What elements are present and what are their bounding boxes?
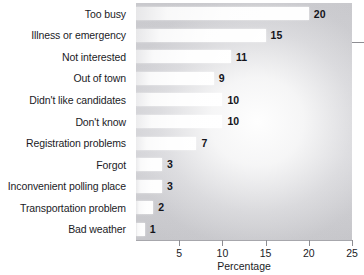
bar-row: 1 xyxy=(136,218,352,240)
bar xyxy=(136,137,196,150)
category-label: Illness or emergency xyxy=(0,25,132,47)
plot-area: 20 15 11 9 10 10 xyxy=(136,3,352,240)
category-label: Forgot xyxy=(0,154,132,176)
category-axis: Too busy Illness or emergency Not intere… xyxy=(0,3,132,240)
category-label: Inconvenient polling place xyxy=(0,175,132,197)
bar-value-label: 9 xyxy=(219,73,225,84)
bar-row: 11 xyxy=(136,46,352,68)
bar-value-label: 15 xyxy=(271,30,283,41)
category-label: Transportation problem xyxy=(0,197,132,219)
bar xyxy=(136,115,222,128)
category-label: Registration problems xyxy=(0,132,132,154)
bar-value-label: 10 xyxy=(227,95,239,106)
bar-row: 3 xyxy=(136,154,352,176)
bar-row: 10 xyxy=(136,111,352,133)
x-axis-tick xyxy=(309,240,310,246)
x-axis-line xyxy=(136,240,352,241)
x-axis-tick-label: 5 xyxy=(176,247,182,259)
x-axis-tick-label: 15 xyxy=(260,247,272,259)
bar-row: 15 xyxy=(136,25,352,47)
bar xyxy=(136,7,309,20)
x-axis-tick-label: 10 xyxy=(217,247,229,259)
x-axis-tick xyxy=(179,240,180,246)
bar-row: 9 xyxy=(136,68,352,90)
x-axis-title: Percentage xyxy=(136,260,352,272)
x-axis-tick xyxy=(266,240,267,246)
bar-row: 7 xyxy=(136,132,352,154)
bar-value-label: 20 xyxy=(314,9,326,20)
bar-row: 3 xyxy=(136,175,352,197)
bar xyxy=(136,180,162,193)
bar-row: 10 xyxy=(136,89,352,111)
bar-row: 2 xyxy=(136,197,352,219)
bar-series: 20 15 11 9 10 10 xyxy=(136,3,352,240)
bar-value-label: 11 xyxy=(236,52,247,63)
category-label: Out of town xyxy=(0,68,132,90)
category-label: Don't know xyxy=(0,111,132,133)
bar-row: 20 xyxy=(136,3,352,25)
x-axis-tick xyxy=(222,240,223,246)
bar xyxy=(136,158,162,171)
category-label: Didn't like candidates xyxy=(0,89,132,111)
bar xyxy=(136,29,266,42)
category-label: Not interested xyxy=(0,46,132,68)
x-axis-tick-label: 20 xyxy=(303,247,315,259)
category-label: Too busy xyxy=(0,3,132,25)
bar-value-label: 2 xyxy=(158,202,164,213)
x-axis-tick xyxy=(352,240,353,246)
bar xyxy=(136,201,153,214)
bar-value-label: 7 xyxy=(201,138,207,149)
x-axis-tick-label: 25 xyxy=(346,247,358,259)
bar-value-label: 1 xyxy=(150,224,156,235)
bar xyxy=(136,50,231,63)
bar-value-label: 3 xyxy=(167,181,173,192)
right-edge-marker-line xyxy=(352,42,364,43)
bar xyxy=(136,72,214,85)
bar-value-label: 3 xyxy=(167,159,173,170)
bar xyxy=(136,223,145,236)
category-label: Bad weather xyxy=(0,218,132,240)
horizontal-bar-chart: Too busy Illness or emergency Not intere… xyxy=(0,0,364,275)
bar xyxy=(136,93,222,106)
bar-value-label: 10 xyxy=(227,116,239,127)
